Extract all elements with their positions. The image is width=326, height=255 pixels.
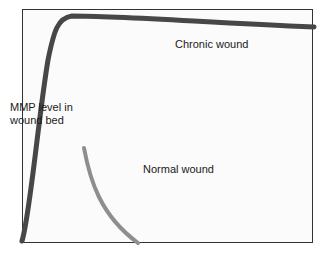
- y-axis-label-line1: MMP level in: [10, 101, 73, 114]
- normal-wound-curve: [84, 148, 138, 243]
- y-axis-label: MMP level in wound bed: [10, 101, 73, 127]
- chart-canvas: MMP level in wound bed Chronic wound Nor…: [0, 0, 326, 255]
- plot-curves: [0, 0, 326, 255]
- normal-wound-label: Normal wound: [143, 163, 214, 176]
- y-axis-label-line2: wound bed: [10, 114, 73, 127]
- chronic-wound-label: Chronic wound: [175, 38, 248, 51]
- chronic-wound-curve: [22, 16, 314, 241]
